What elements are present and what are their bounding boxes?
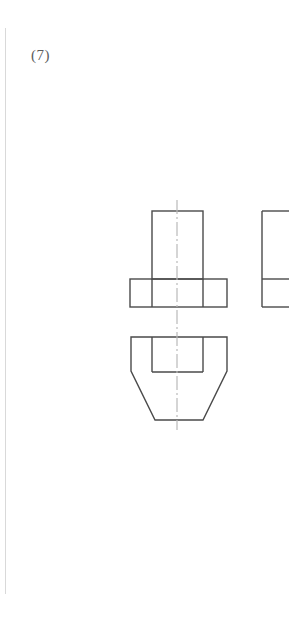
- page-sheet: (7): [0, 0, 289, 640]
- side-view-partial: [262, 211, 289, 307]
- technical-drawing: [0, 0, 289, 640]
- top-view-outline: [131, 337, 227, 420]
- drawing-canvas: [0, 0, 289, 640]
- top-view: [131, 337, 227, 420]
- front-view-base-rect: [130, 279, 227, 307]
- front-view: [130, 211, 227, 307]
